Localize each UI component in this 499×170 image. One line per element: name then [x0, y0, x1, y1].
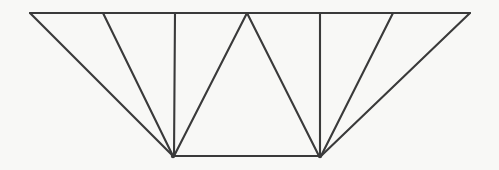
truss-joint-b0 — [171, 154, 175, 158]
m-left-vertical: left vertical post — [174, 13, 175, 156]
truss-diagram-svg: top chordbottom chordleft end diagonalle… — [0, 0, 499, 170]
truss-joint-b1 — [318, 154, 322, 158]
figure-background — [0, 0, 499, 170]
truss-figure: top chordbottom chordleft end diagonalle… — [0, 0, 499, 170]
